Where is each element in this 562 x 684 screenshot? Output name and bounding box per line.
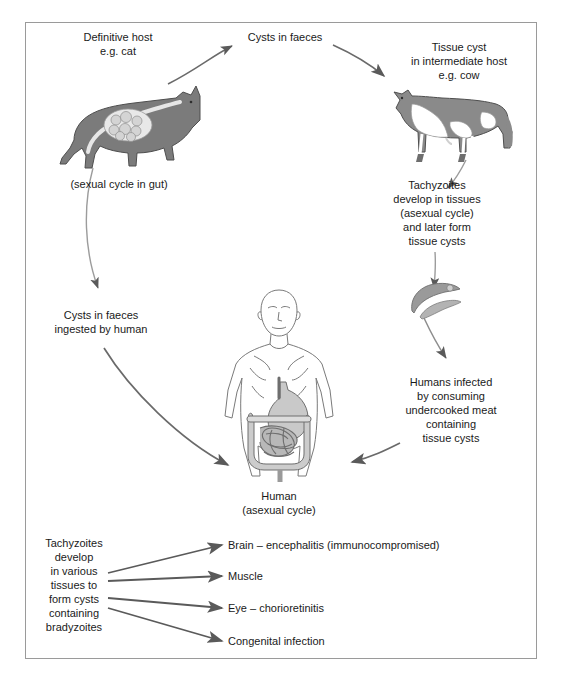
diagram-page: Definitive host e.g. cat Cysts in faeces… (0, 0, 562, 684)
label-cysts-in-faeces-top: Cysts in faeces (230, 30, 340, 44)
outcome-muscle: Muscle (228, 569, 528, 583)
label-human: Human (asexual cycle) (222, 489, 336, 517)
label-definitive-host: Definitive host e.g. cat (58, 30, 178, 58)
label-tachyzoites-develop: Tachyzoites develop in tissues (asexual … (372, 178, 502, 248)
label-tissue-cyst-host: Tissue cyst in intermediate host e.g. co… (394, 40, 524, 82)
label-cysts-ingested: Cysts in faeces ingested by human (36, 308, 166, 336)
outcome-congenital: Congenital infection (228, 634, 528, 648)
label-tachyzoites-various: Tachyzoites develop in various tissues t… (36, 536, 112, 634)
cow-illustration (386, 82, 518, 172)
human-illustration (216, 286, 342, 482)
cat-illustration (52, 78, 212, 173)
tachyzoite-illustration (404, 281, 464, 323)
outcome-eye: Eye – chorioretinitis (228, 601, 528, 615)
outcome-brain: Brain – encephalitis (immunocompromised) (228, 538, 528, 552)
label-sexual-cycle: (sexual cycle in gut) (44, 177, 194, 191)
label-humans-infected: Humans infected by consuming undercooked… (386, 375, 516, 445)
